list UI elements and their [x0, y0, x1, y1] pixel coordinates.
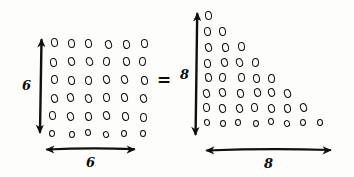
arrow-layer	[0, 0, 354, 177]
left-horizontal-label: 6	[86, 156, 95, 169]
right-horizontal-arrow	[205, 146, 332, 154]
dot	[69, 131, 75, 138]
left-vertical-arrow	[36, 39, 46, 134]
left-vertical-label: 6	[22, 79, 31, 92]
right-horizontal-label: 8	[264, 157, 273, 170]
dot	[67, 39, 75, 49]
dot	[202, 102, 210, 112]
dot	[48, 111, 56, 121]
dot	[251, 58, 258, 67]
dot	[140, 113, 147, 122]
equals-sign: =	[157, 72, 171, 89]
dot	[102, 92, 110, 102]
diagram-canvas: 6 6 = 8 8	[0, 0, 354, 177]
dot	[268, 74, 275, 83]
right-vertical-arrow	[191, 12, 201, 136]
dot	[203, 58, 211, 68]
dot	[139, 130, 145, 137]
dot	[237, 73, 244, 82]
right-vertical-label: 8	[180, 68, 189, 81]
left-horizontal-arrow	[45, 145, 135, 153]
